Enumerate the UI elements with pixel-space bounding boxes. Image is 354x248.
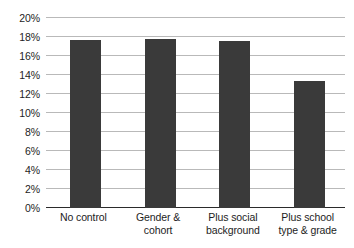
bar bbox=[294, 81, 325, 208]
y-axis-tick-label: 2% bbox=[25, 184, 40, 195]
y-axis-tick-label: 18% bbox=[19, 32, 40, 43]
y-axis-tick-label: 0% bbox=[25, 203, 40, 214]
x-axis-category-label: Plus schooltype & grade bbox=[270, 211, 345, 236]
y-axis-tick-label: 8% bbox=[25, 127, 40, 138]
bars-layer bbox=[46, 18, 345, 208]
bar bbox=[145, 39, 176, 208]
y-axis-tick-label: 16% bbox=[19, 51, 40, 62]
y-axis-tick-label: 6% bbox=[25, 146, 40, 157]
x-axis-category-label: Plus socialbackground bbox=[196, 211, 271, 236]
y-axis-tick-label: 4% bbox=[25, 165, 40, 176]
y-axis-tick-label: 10% bbox=[19, 108, 40, 119]
x-axis-category-label-line: Plus school bbox=[270, 211, 345, 224]
x-axis-category-label-line: No control bbox=[46, 211, 121, 224]
x-axis-category-label-line: type & grade bbox=[270, 224, 345, 237]
x-axis-labels: No controlGender &cohortPlus socialbackg… bbox=[46, 211, 345, 245]
y-axis-tick-label: 20% bbox=[19, 13, 40, 24]
y-axis-tick-label: 12% bbox=[19, 89, 40, 100]
bar bbox=[70, 40, 101, 208]
y-axis-labels: 0%2%4%6%8%10%12%14%16%18%20% bbox=[0, 18, 42, 208]
bar-chart: 0%2%4%6%8%10%12%14%16%18%20% No controlG… bbox=[0, 0, 354, 248]
bar bbox=[219, 41, 250, 208]
x-axis-category-label-line: Gender & bbox=[121, 211, 196, 224]
x-axis-category-label: No control bbox=[46, 211, 121, 224]
x-axis-category-label-line: cohort bbox=[121, 224, 196, 237]
x-axis-category-label-line: Plus social bbox=[196, 211, 271, 224]
x-axis-category-label: Gender &cohort bbox=[121, 211, 196, 236]
x-axis-category-label-line: background bbox=[196, 224, 271, 237]
y-axis-tick-label: 14% bbox=[19, 70, 40, 81]
